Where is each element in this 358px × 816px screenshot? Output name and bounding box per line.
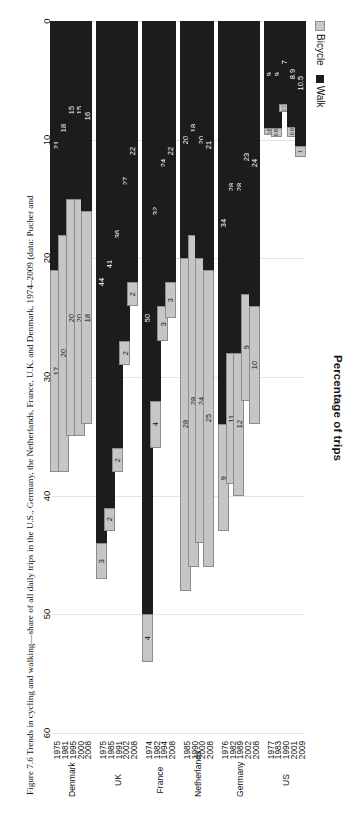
country-group-labels: DenmarkUKFranceNetherlandsGermanyUS [52,763,304,797]
bar-segment-bicycle: 2 [127,282,138,306]
legend-entry-bicycle: Bicycle [315,21,326,66]
legend-swatch-bicycle [316,21,326,31]
bar-segment-walk: 24 [249,21,260,306]
plot-area: 2117182015201520161844341236227222250432… [52,21,304,733]
x-axis-tick-label: 50 [41,609,52,620]
bar-segment-bicycle: 1 [295,146,306,158]
bar-segment-bicycle: 10 [249,306,260,425]
bar-value-label-walk: 21 [205,141,212,149]
year-tick-label: 2008 [205,737,215,763]
year-tick-label: 2008 [251,737,261,763]
bar-segment-walk: 16 [81,21,92,211]
year-tick-label: 2008 [129,737,139,763]
bar-segment-bicycle: 18 [81,211,92,425]
legend-entry-walk: Walk [315,75,326,108]
figure-page: Percentage of trips Bicycle Walk 2117182… [0,0,358,816]
chart-legend: Bicycle Walk [315,21,326,108]
figure-inner: Percentage of trips Bicycle Walk 2117182… [14,13,344,803]
country-label: US [281,763,291,797]
bar-value-label-walk: 22 [129,147,136,155]
legend-label-bicycle: Bicycle [315,34,326,66]
bar-value-label-walk: 24 [251,159,258,167]
bar-value-label-bicycle: 18 [83,314,90,322]
bar-value-label-walk: 10.5 [296,76,303,90]
chart-title: Percentage of trips [332,13,344,803]
year-tick-label: 2008 [83,737,93,763]
country-label: Denmark [67,763,77,797]
x-axis-tick-label: 40 [41,490,52,501]
bar-value-label-bicycle: 2 [129,292,136,296]
bar-value-label-bicycle: 10 [251,361,258,369]
rotated-figure-wrapper: Percentage of trips Bicycle Walk 2117182… [0,0,358,816]
figure: Percentage of trips Bicycle Walk 2117182… [14,13,344,803]
legend-swatch-walk [317,75,325,83]
bar-segment-bicycle: 3 [165,282,176,318]
bar-value-label-bicycle: 1 [298,150,303,153]
bar-segment-bicycle: 25 [203,270,214,567]
bar-value-label-bicycle: 3 [167,298,174,302]
category-axis-years: 1975198119952000200819751985199120022008… [52,737,304,763]
country-label: Germany [235,763,245,797]
legend-label-walk: Walk [315,86,326,108]
gridline [52,733,304,734]
bar-value-label-walk: 16 [83,112,90,120]
bar-value-label-bicycle: 25 [205,414,212,422]
bar-segment-walk: 22 [127,21,138,282]
bar-row: 1618 [81,21,92,733]
bar-row: 223 [165,21,176,733]
year-tick-label: 2009 [297,737,307,763]
x-axis-tick-label: 30 [41,372,52,383]
bar-segment-walk: 21 [203,21,214,270]
bar-segment-walk: 22 [165,21,176,282]
x-axis: 0102030405060 [36,21,52,733]
bar-value-label-walk: 22 [167,147,174,155]
x-axis-tick-label: 0 [41,18,52,23]
country-label: Netherlands [193,763,203,797]
bar-series-container: 2117182015201520161844341236227222250432… [52,21,304,733]
x-axis-tick-label: 20 [41,253,52,264]
x-axis-tick-label: 60 [41,728,52,739]
country-label: UK [113,763,123,797]
figure-caption: Figure 7.6 Trends in cycling and walking… [25,21,36,795]
bar-row: 2125 [203,21,214,733]
country-label: France [155,763,165,797]
bar-row: 222 [127,21,138,733]
bar-row: 10.51 [295,21,306,733]
bar-row: 2410 [249,21,260,733]
bar-segment-walk: 10.5 [295,21,306,146]
x-axis-tick-label: 10 [41,134,52,145]
year-tick-label: 2008 [167,737,177,763]
